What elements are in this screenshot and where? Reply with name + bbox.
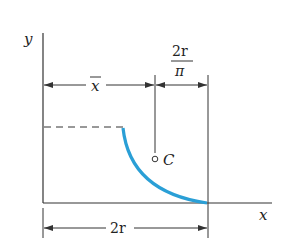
y-axis-label: y — [23, 30, 33, 48]
offset-numerator: 2r — [172, 43, 188, 59]
offset-denominator: π — [174, 63, 185, 79]
xbar-label: x — [91, 77, 100, 95]
centroid-point — [152, 156, 158, 162]
centroid-diagram: y x x 2r π C 2r — [0, 0, 294, 245]
x-axis-label: x — [259, 206, 268, 224]
centroid-label: C — [163, 151, 175, 169]
base-width-label: 2r — [110, 220, 126, 236]
